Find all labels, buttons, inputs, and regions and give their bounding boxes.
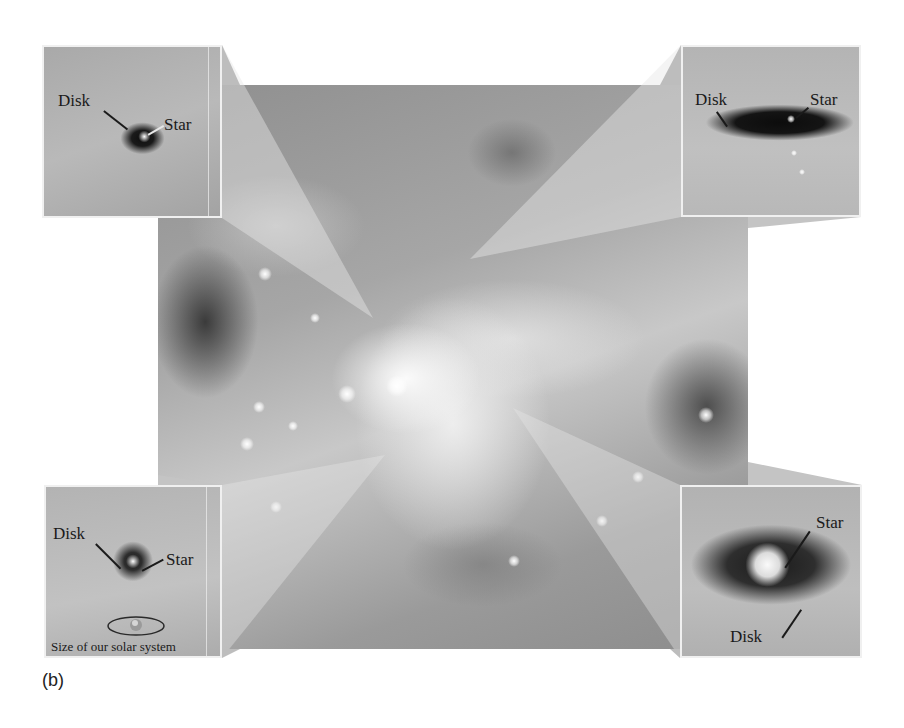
label-star: Star: [816, 513, 843, 533]
facet-bottom-left: [222, 649, 240, 658]
facet-right-lower: [748, 462, 862, 485]
star-point: [787, 115, 795, 123]
inset-top-left: Disk Star: [42, 45, 222, 218]
facet-left-lower: [158, 475, 222, 485]
inset-divider-line: [208, 47, 209, 218]
label-star: Star: [810, 90, 837, 110]
facet-bottom-right: [670, 649, 680, 658]
star-point: [799, 169, 805, 175]
label-disk: Disk: [58, 91, 90, 111]
figure-part-label: (b): [42, 670, 64, 691]
solar-system-scale-icon: [106, 614, 166, 638]
label-star: Star: [166, 550, 193, 570]
label-disk: Disk: [730, 627, 762, 647]
label-disk: Disk: [695, 90, 727, 110]
inset-bottom-right: Star Disk: [680, 485, 862, 658]
inset-top-right: Disk Star: [681, 45, 861, 217]
inset-image: [683, 47, 859, 215]
scale-caption: Size of our solar system: [51, 639, 176, 655]
label-disk: Disk: [53, 524, 85, 544]
wedge-bottom-right: [513, 408, 680, 658]
inset-divider-line: [206, 487, 207, 658]
inset-bottom-left: Disk Star Size of our solar system: [44, 485, 222, 658]
wedge-top-right: [470, 45, 681, 259]
label-star: Star: [164, 115, 191, 135]
facet-right-upper: [748, 217, 861, 228]
wedge-bottom-left: [222, 455, 385, 658]
star-point: [791, 150, 797, 156]
wedge-top-left: [222, 45, 373, 318]
inset-image: [44, 47, 220, 216]
